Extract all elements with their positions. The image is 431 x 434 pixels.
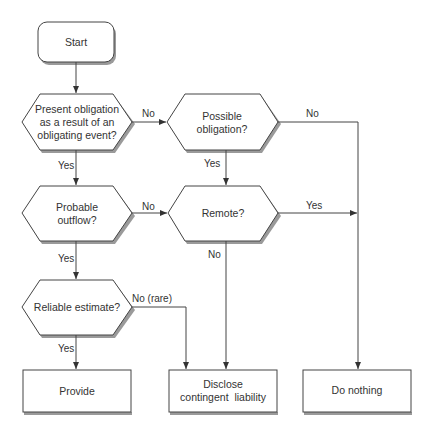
disclose-contingent-liability-outcome: Disclose contingent liability — [169, 370, 278, 415]
flowchart: Start Present obligation as a result of … — [0, 0, 431, 434]
label-remote-no: No — [208, 249, 221, 260]
edge-possible-no — [278, 122, 358, 369]
edge-reliable-no — [132, 307, 186, 369]
label-reliable-no: No (rare) — [132, 293, 172, 304]
remote-label: Remote? — [202, 207, 245, 219]
remote-decision: Remote? — [168, 186, 281, 244]
probable-outflow-line-1: Probable — [56, 201, 98, 213]
label-present-yes: Yes — [58, 160, 74, 171]
label-probable-no: No — [142, 201, 155, 212]
reliable-estimate-decision: Reliable estimate? — [22, 280, 135, 338]
do-nothing-label: Do nothing — [332, 384, 383, 396]
label-remote-yes: Yes — [306, 200, 322, 211]
possible-obligation-decision: Possible obligation? — [167, 94, 281, 153]
label-possible-no: No — [306, 108, 319, 119]
provide-outcome: Provide — [23, 370, 132, 415]
probable-outflow-line-2: outflow? — [57, 214, 96, 226]
disclose-line-2: contingent liability — [180, 391, 267, 403]
disclose-line-1: Disclose — [203, 378, 243, 390]
label-possible-yes: Yes — [204, 158, 220, 169]
present-obligation-line-3: obligating event? — [37, 129, 117, 141]
present-obligation-line-1: Present obligation — [35, 103, 119, 115]
reliable-estimate-label: Reliable estimate? — [34, 301, 121, 313]
label-reliable-yes: Yes — [58, 343, 74, 354]
provide-label: Provide — [59, 385, 95, 397]
possible-obligation-line-1: Possible — [202, 110, 242, 122]
start-node: Start — [38, 22, 116, 65]
possible-obligation-line-2: obligation? — [197, 123, 248, 135]
start-label: Start — [65, 36, 87, 48]
do-nothing-outcome: Do nothing — [303, 370, 412, 415]
probable-outflow-decision: Probable outflow? — [22, 186, 135, 244]
present-obligation-decision: Present obligation as a result of an obl… — [22, 94, 135, 153]
present-obligation-line-2: as a result of an — [40, 116, 115, 128]
label-probable-yes: Yes — [58, 253, 74, 264]
label-present-no: No — [142, 108, 155, 119]
